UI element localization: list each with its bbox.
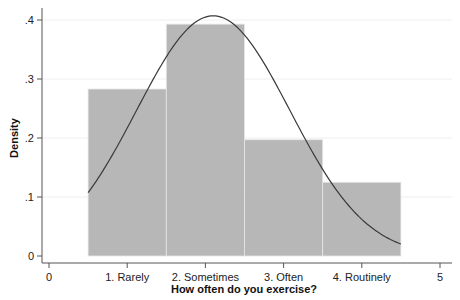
x-tick-label: 5 — [437, 271, 443, 283]
histogram-bar — [245, 140, 323, 256]
y-tick-label: .1 — [25, 191, 34, 203]
y-tick-label: .2 — [25, 132, 34, 144]
x-tick-label: 0 — [46, 271, 52, 283]
x-tick-label: 1. Rarely — [105, 271, 150, 283]
histogram-bar — [88, 89, 166, 256]
histogram-bar — [166, 24, 244, 256]
histogram-bars — [88, 24, 401, 256]
y-axis-title: Density — [8, 117, 20, 158]
x-tick-label: 2. Sometimes — [172, 271, 240, 283]
x-tick-label: 4. Routinely — [333, 271, 392, 283]
x-tick-label: 3. Often — [264, 271, 303, 283]
y-tick-label: 0 — [28, 250, 34, 262]
y-axis-ticks: 0.1.2.3.4 — [25, 14, 42, 262]
histogram-chart: 0.1.2.3.4 01. Rarely2. Sometimes3. Often… — [0, 0, 460, 300]
y-tick-label: .4 — [25, 14, 34, 26]
x-axis-ticks: 01. Rarely2. Sometimes3. Often4. Routine… — [46, 263, 443, 283]
x-axis-title: How often do you exercise? — [171, 283, 317, 295]
y-tick-label: .3 — [25, 73, 34, 85]
